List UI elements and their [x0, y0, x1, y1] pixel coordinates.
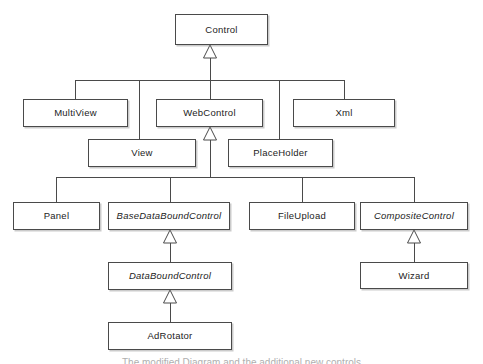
- class-box-xml[interactable]: Xml: [293, 99, 395, 127]
- class-box-multiview[interactable]: MultiView: [23, 99, 128, 127]
- class-box-panel[interactable]: Panel: [13, 202, 100, 230]
- class-box-databoundcontrol[interactable]: DataBoundControl: [108, 262, 232, 290]
- generalization-arrowhead-compositecontrol: [408, 230, 421, 243]
- class-box-label: FileUpload: [278, 211, 326, 221]
- class-box-wizard[interactable]: Wizard: [360, 262, 468, 289]
- class-box-basedataboundcontrol[interactable]: BaseDataBoundControl: [108, 202, 230, 230]
- class-box-label: Xml: [335, 108, 352, 118]
- generalization-arrowhead-control: [204, 45, 217, 58]
- class-box-label: Panel: [44, 211, 70, 221]
- class-box-label: CompositeControl: [374, 211, 454, 221]
- class-box-control[interactable]: Control: [175, 14, 268, 45]
- class-box-compositecontrol[interactable]: CompositeControl: [360, 202, 468, 230]
- class-box-label: View: [131, 148, 152, 158]
- class-box-label: AdRotator: [147, 331, 192, 341]
- class-box-adrotator[interactable]: AdRotator: [108, 322, 232, 350]
- class-box-webcontrol[interactable]: WebControl: [156, 99, 263, 127]
- class-box-label: Wizard: [398, 271, 429, 281]
- class-box-label: PlaceHolder: [253, 148, 308, 158]
- generalization-arrowhead-webcontrol: [204, 127, 217, 140]
- class-box-label: Control: [205, 25, 237, 35]
- uml-class-diagram: ControlMultiViewWebControlXmlViewPlaceHo…: [0, 0, 483, 364]
- class-box-placeholder[interactable]: PlaceHolder: [228, 139, 333, 167]
- class-box-label: MultiView: [54, 108, 97, 118]
- class-box-fileupload[interactable]: FileUpload: [249, 202, 355, 230]
- class-box-view[interactable]: View: [88, 139, 196, 167]
- diagram-connectors: [0, 0, 483, 364]
- class-box-label: WebControl: [183, 108, 236, 118]
- class-box-label: BaseDataBoundControl: [117, 211, 222, 221]
- figure-caption: The modified Diagram and the additional …: [0, 357, 483, 364]
- class-box-label: DataBoundControl: [129, 271, 211, 281]
- generalization-arrowhead-databoundcontrol: [164, 290, 177, 303]
- generalization-arrowhead-basedataboundcontrol: [164, 230, 177, 243]
